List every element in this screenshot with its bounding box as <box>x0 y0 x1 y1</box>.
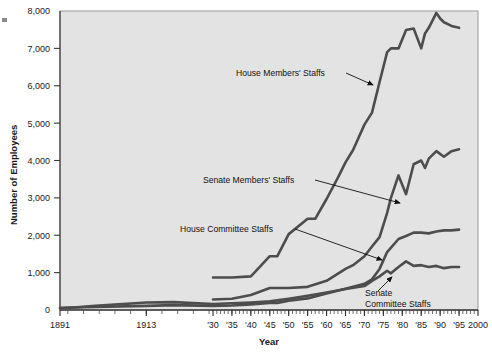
annotation-label-house-committee-staffs: House Committee Staffs <box>180 224 273 234</box>
y-axis-tick-label: 8,000 <box>27 6 50 16</box>
annotation-label-senate-committee-staffs: Senate <box>365 288 392 298</box>
x-axis-tick-label: 1913 <box>136 320 156 330</box>
annotation-label-senate-committee-staffs-line2: Committee Staffs <box>365 299 431 309</box>
y-axis-tick-label: 0 <box>45 305 50 315</box>
annotation-label-house-members-staffs: House Members' Staffs <box>236 68 325 78</box>
x-axis-tick-labels: 18911913'30'35'40'45'50'55'60'65'70'75'8… <box>50 320 488 330</box>
x-axis-tick-label: '90 <box>434 320 446 330</box>
x-axis-tick-label: '30 <box>207 320 219 330</box>
y-axis-tick-label: 2,000 <box>27 231 50 241</box>
x-axis-tick-label: 1891 <box>50 320 70 330</box>
x-axis-tick-label: '50 <box>283 320 295 330</box>
y-axis-tick-label: 4,000 <box>27 156 50 166</box>
x-axis-tick-label: '55 <box>302 320 314 330</box>
scan-artifact-mark <box>2 18 7 22</box>
x-axis-tick-label: 2000 <box>468 320 488 330</box>
x-axis-title: Year <box>259 336 279 347</box>
x-axis-tick-label: '40 <box>245 320 257 330</box>
y-axis-tick-label: 3,000 <box>27 193 50 203</box>
y-axis-ticks <box>54 48 60 272</box>
x-axis-ticks <box>60 310 478 316</box>
y-axis-tick-label: 5,000 <box>27 119 50 129</box>
x-axis-tick-label: '75 <box>377 320 389 330</box>
x-axis-tick-label: '65 <box>340 320 352 330</box>
x-axis-tick-label: '95 <box>453 320 465 330</box>
x-axis-tick-label: '70 <box>359 320 371 330</box>
congressional-staff-growth-chart: 01,0002,0003,0004,0005,0006,0007,0008,00… <box>0 0 492 362</box>
x-axis-tick-label: '60 <box>321 320 333 330</box>
y-axis-tick-label: 7,000 <box>27 44 50 54</box>
y-axis-tick-label: 1,000 <box>27 268 50 278</box>
x-axis-tick-label: '35 <box>226 320 238 330</box>
x-axis-tick-label: '85 <box>415 320 427 330</box>
annotation-label-senate-members-staffs: Senate Members' Staffs <box>203 175 294 185</box>
y-axis-tick-labels: 01,0002,0003,0004,0005,0006,0007,0008,00… <box>27 6 50 315</box>
x-axis-tick-label: '80 <box>396 320 408 330</box>
y-axis-tick-label: 6,000 <box>27 81 50 91</box>
x-axis-tick-label: '45 <box>264 320 276 330</box>
y-axis-title: Number of Employees <box>8 125 19 225</box>
